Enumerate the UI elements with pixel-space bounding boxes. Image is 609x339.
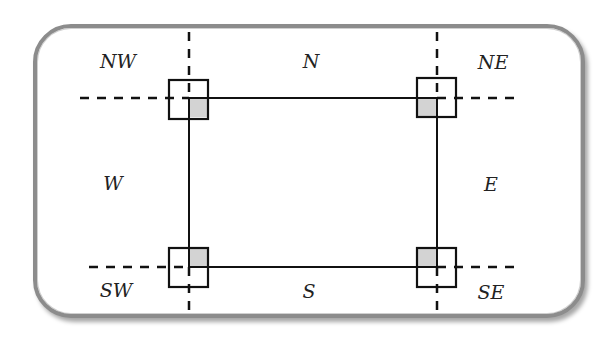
shaded-quadrants <box>189 98 437 267</box>
label-s: S <box>302 280 315 302</box>
label-se: SE <box>478 281 505 303</box>
shaded-quadrant-bottom-left <box>189 248 208 267</box>
corner-squares <box>169 78 456 287</box>
label-n: N <box>303 50 320 72</box>
label-sw: SW <box>100 279 133 301</box>
label-e: E <box>484 173 498 195</box>
inner-rectangle <box>189 98 437 267</box>
label-ne: NE <box>478 51 509 73</box>
shaded-quadrant-bottom-right <box>417 248 437 267</box>
label-w: W <box>103 172 123 194</box>
shaded-quadrant-top-left <box>189 98 208 117</box>
label-nw: NW <box>100 50 136 72</box>
shaded-quadrant-top-right <box>417 98 437 117</box>
